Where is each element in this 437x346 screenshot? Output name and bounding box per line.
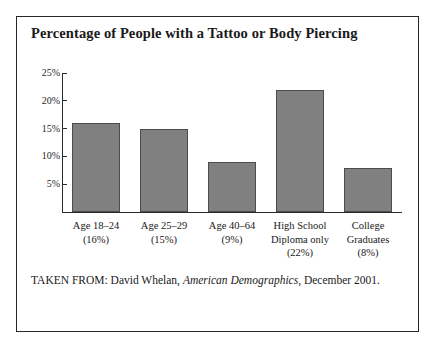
bar-series (62, 73, 402, 212)
source-suffix: , December 2001. (298, 274, 380, 286)
bar (276, 90, 324, 212)
bar (140, 129, 188, 212)
y-axis-tick-label: 5% (20, 179, 60, 189)
y-axis-tick-label: 25% (20, 68, 60, 78)
y-axis-tick-label: 15% (20, 124, 60, 134)
category-label: CollegeGraduates(8%) (325, 219, 411, 260)
source-note: TAKEN FROM: David Whelan, American Demog… (31, 272, 406, 288)
category-value-label: (8%) (325, 246, 411, 260)
bar (208, 162, 256, 212)
figure-frame: Percentage of People with a Tattoo or Bo… (16, 16, 419, 332)
y-axis-tick-label: 20% (20, 96, 60, 106)
y-axis-tick-label: 10% (20, 151, 60, 161)
category-label-line: Graduates (325, 233, 411, 247)
bar (344, 168, 392, 212)
x-axis-line (62, 212, 402, 213)
plot-area: 5%10%15%20%25% Age 18–24(16%)Age 25–29(1… (17, 57, 420, 287)
source-publication: American Demographics (183, 274, 298, 286)
bar (72, 123, 120, 212)
chart-title: Percentage of People with a Tattoo or Bo… (31, 25, 357, 42)
category-label-line: College (325, 219, 411, 233)
source-prefix: TAKEN FROM: David Whelan, (31, 274, 180, 286)
